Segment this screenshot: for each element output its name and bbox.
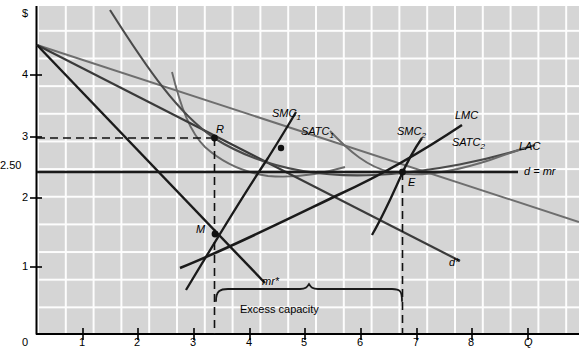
y-tick-label-4: 4 <box>22 68 28 80</box>
satc2-base: SATC <box>452 136 481 148</box>
x-tick-label-5: 5 <box>301 336 307 348</box>
x-tick-label-2: 2 <box>134 336 140 348</box>
point-unlabeled-marker <box>278 145 284 151</box>
point-E-marker <box>399 169 406 176</box>
y-axis-title: $ <box>22 7 28 19</box>
smc1-sub: 1 <box>296 113 300 122</box>
x-tick-label-4: 4 <box>246 336 252 348</box>
point-label-R: R <box>216 123 224 135</box>
point-label-M: M <box>196 223 205 235</box>
curve-label-satc1: SATC1 <box>301 125 334 140</box>
point-label-E: E <box>408 176 415 188</box>
origin-label: 0 <box>22 336 28 348</box>
x-tick-label-1: 1 <box>79 336 85 348</box>
y-tick-label-2: 2 <box>22 191 28 203</box>
x-tick-label-3: 3 <box>190 336 196 348</box>
curve-label-lmc: LMC <box>455 109 478 121</box>
y-tick-label-1: 1 <box>22 260 28 272</box>
satc1-base: SATC <box>301 125 330 137</box>
point-M-marker <box>212 231 219 238</box>
smc2-sub: 2 <box>421 131 425 140</box>
x-tick-label-6: 6 <box>357 336 363 348</box>
x-tick-label-8: 8 <box>468 336 474 348</box>
curve-label-lac: LAC <box>519 140 540 152</box>
excess-capacity-label: Excess capacity <box>240 303 319 315</box>
y-tick-label-2-50: 2.50 <box>0 159 21 171</box>
monopolistic-competition-chart: $ 4 3 2.50 2 1 0 1 2 3 4 5 6 7 8 Q R M E… <box>0 0 579 351</box>
satc1-sub: 1 <box>330 131 334 140</box>
x-axis-title: Q <box>524 336 533 348</box>
chart-canvas <box>0 0 579 351</box>
y-tick-label-3: 3 <box>22 130 28 142</box>
smc1-base: SMC <box>272 107 296 119</box>
curve-label-smc2: SMC2 <box>397 125 426 140</box>
point-R-marker <box>211 135 218 142</box>
satc2-sub: 2 <box>481 142 485 151</box>
curve-label-smc1: SMC1 <box>272 107 301 122</box>
curve-label-d-mr: d = mr <box>524 165 555 177</box>
curve-label-satc2: SATC2 <box>452 136 485 151</box>
x-tick-label-7: 7 <box>413 336 419 348</box>
smc2-base: SMC <box>397 125 421 137</box>
curve-label-d-star: d* <box>449 256 459 268</box>
curve-label-mr-star: mr* <box>262 275 279 287</box>
